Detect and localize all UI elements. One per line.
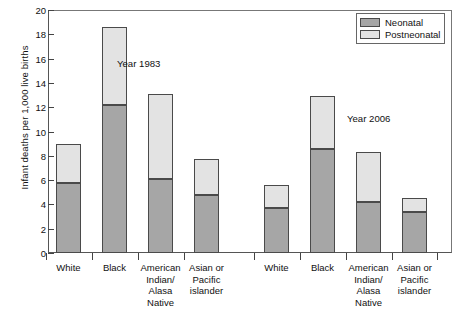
segment-neonatal — [310, 149, 335, 253]
y-tick-20 — [48, 10, 54, 11]
category-label-asian-0: Asian orPacificislander — [172, 262, 242, 297]
y-tick-14 — [48, 83, 54, 84]
category-label-line: Native — [334, 297, 404, 309]
y-tick-2 — [48, 229, 54, 230]
x-tick-4 — [254, 253, 255, 260]
legend-swatch-neonatal-icon — [360, 18, 380, 27]
segment-neonatal — [102, 105, 127, 253]
y-tick-label-20: 20 — [0, 5, 46, 16]
segment-neonatal — [194, 195, 219, 253]
bar-0-american_indian — [148, 94, 173, 253]
bar-1-american_indian — [356, 152, 381, 253]
y-tick-label-10: 10 — [0, 126, 46, 137]
segment-neonatal — [148, 179, 173, 253]
x-tick-3 — [184, 253, 185, 260]
category-label-line: Asian or — [172, 262, 242, 274]
y-tick-4 — [48, 204, 54, 205]
bar-1-white — [264, 185, 289, 253]
segment-neonatal — [356, 202, 381, 253]
legend-swatch-postneonatal-icon — [360, 30, 380, 39]
legend-label-neonatal: Neonatal — [385, 18, 423, 28]
x-tick-6 — [346, 253, 347, 260]
category-label-asian-1: Asian orPacificislander — [380, 262, 450, 297]
legend-label-postneonatal: Postneonatal — [385, 30, 440, 40]
x-tick-0 — [46, 253, 47, 260]
y-tick-label-2: 2 — [0, 223, 46, 234]
y-tick-label-8: 8 — [0, 150, 46, 161]
x-tick-1 — [92, 253, 93, 260]
segment-neonatal — [402, 212, 427, 253]
x-tick-end — [437, 253, 438, 260]
y-tick-0 — [48, 253, 54, 254]
segment-neonatal — [264, 208, 289, 253]
y-tick-label-16: 16 — [0, 53, 46, 64]
y-tick-label-18: 18 — [0, 29, 46, 40]
y-tick-10 — [48, 132, 54, 133]
y-tick-label-6: 6 — [0, 175, 46, 186]
bar-1-asian — [402, 198, 427, 253]
category-label-line: Asian or — [380, 262, 450, 274]
annotation-year-1983: Year 1983 — [117, 58, 160, 69]
segment-postneonatal — [402, 198, 427, 211]
legend: Neonatal Postneonatal — [356, 13, 445, 44]
legend-item-neonatal: Neonatal — [360, 17, 440, 28]
y-tick-16 — [48, 59, 54, 60]
y-tick-6 — [48, 180, 54, 181]
y-tick-18 — [48, 34, 54, 35]
category-label-line: islander — [380, 285, 450, 297]
bar-0-asian — [194, 159, 219, 253]
segment-postneonatal — [194, 159, 219, 194]
y-tick-label-12: 12 — [0, 102, 46, 113]
y-tick-12 — [48, 107, 54, 108]
x-tick-2 — [138, 253, 139, 260]
segment-postneonatal — [310, 96, 335, 148]
y-tick-label-0: 0 — [0, 248, 46, 259]
segment-postneonatal — [356, 152, 381, 202]
category-label-line: Native — [126, 297, 196, 309]
y-tick-label-4: 4 — [0, 199, 46, 210]
segment-neonatal — [56, 183, 81, 253]
segment-postneonatal — [56, 144, 81, 183]
category-label-line: islander — [172, 285, 242, 297]
bar-0-white — [56, 144, 81, 253]
infant-mortality-chart: Infant deaths per 1,000 live births 0246… — [0, 0, 458, 318]
bar-1-black — [310, 96, 335, 253]
y-tick-label-14: 14 — [0, 77, 46, 88]
segment-postneonatal — [264, 185, 289, 208]
legend-item-postneonatal: Postneonatal — [360, 29, 440, 40]
annotation-year-2006: Year 2006 — [347, 113, 390, 124]
x-tick-7 — [392, 253, 393, 260]
segment-postneonatal — [148, 94, 173, 179]
category-label-line: Pacific — [380, 274, 450, 286]
category-label-line: Pacific — [172, 274, 242, 286]
y-tick-8 — [48, 156, 54, 157]
x-tick-5 — [300, 253, 301, 260]
